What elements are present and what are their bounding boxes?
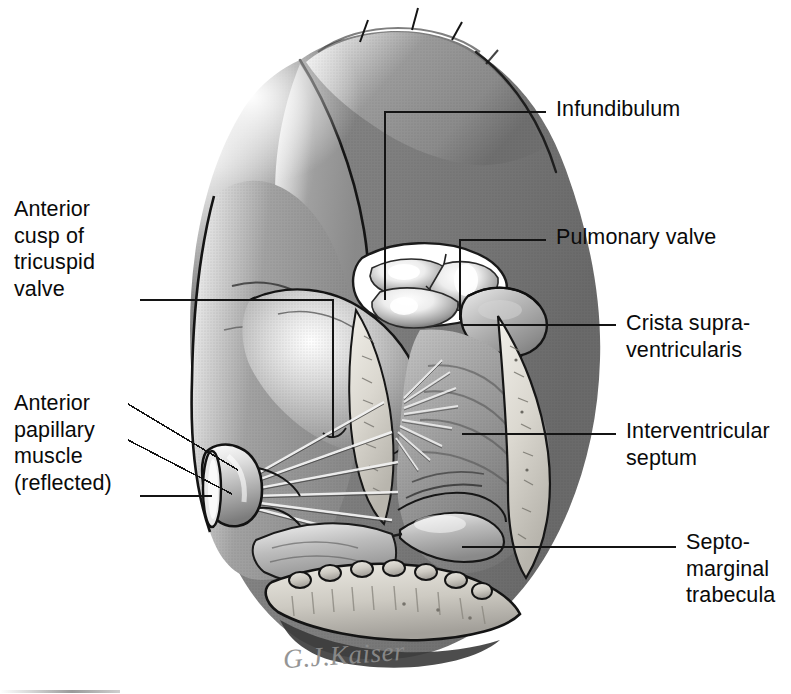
label-pulmonary-valve: Pulmonary valve (556, 224, 716, 251)
label-anterior-papillary-muscle: Anterior papillary muscle (reflected) (14, 390, 112, 496)
bottom-edge-artifact (0, 690, 120, 693)
figure-canvas: Anterior cusp of tricuspid valve Anterio… (0, 0, 791, 694)
label-interventricular-septum: Interventricular septum (626, 418, 770, 471)
label-infundibulum: Infundibulum (556, 96, 680, 123)
label-anterior-cusp-tricuspid-valve: Anterior cusp of tricuspid valve (14, 196, 95, 302)
label-crista-supraventricularis: Crista supra- ventricularis (626, 310, 750, 363)
label-septomarginal-trabecula: Septo- marginal trabecula (686, 529, 775, 609)
